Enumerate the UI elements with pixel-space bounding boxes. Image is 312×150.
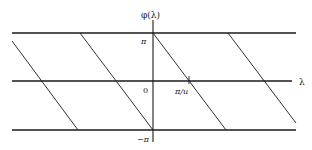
x-axis-label: λ bbox=[299, 77, 305, 87]
tick-label-pi-over-u: π/u bbox=[174, 87, 188, 96]
tick-label-pi: π bbox=[140, 37, 147, 46]
phase-diagram: φ(λ) λ π 0 −π π/u bbox=[0, 0, 312, 150]
y-axis-label: φ(λ) bbox=[141, 10, 160, 20]
diagonal-segment-4 bbox=[228, 33, 296, 123]
tick-label-neg-pi: −π bbox=[137, 135, 150, 144]
tick-label-zero: 0 bbox=[143, 86, 148, 95]
diagonal-segment-1 bbox=[12, 41, 78, 130]
